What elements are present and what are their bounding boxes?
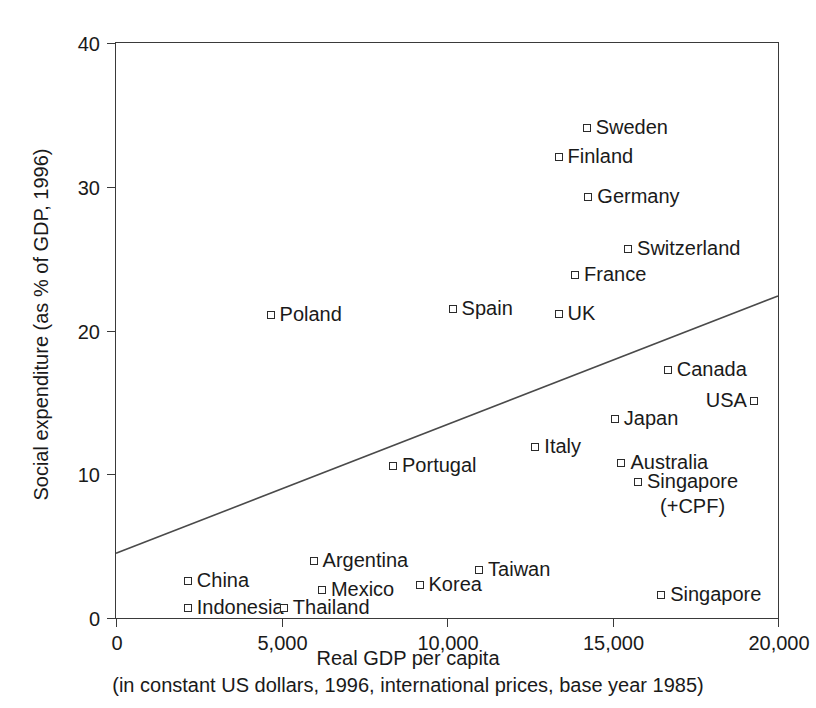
data-point-label: Germany bbox=[597, 184, 679, 209]
open-square-marker-icon bbox=[310, 557, 318, 565]
x-tick-10000: 10,000 bbox=[447, 618, 448, 627]
y-tick-label: 40 bbox=[78, 32, 100, 56]
x-tick-0: 0 bbox=[116, 618, 117, 627]
x-tick-20000: 20,000 bbox=[778, 618, 779, 627]
open-square-marker-icon bbox=[617, 459, 625, 467]
data-point-label: Switzerland bbox=[637, 236, 740, 261]
open-square-marker-icon bbox=[624, 245, 632, 253]
open-square-marker-icon bbox=[184, 604, 192, 612]
y-tick-label: 0 bbox=[89, 607, 100, 631]
data-point-label: Spain bbox=[462, 296, 513, 321]
open-square-marker-icon bbox=[184, 577, 192, 585]
open-square-marker-icon bbox=[634, 478, 642, 486]
x-axis-title: Real GDP per capita (in constant US doll… bbox=[0, 645, 816, 699]
open-square-marker-icon bbox=[416, 581, 424, 589]
open-square-marker-icon bbox=[583, 124, 591, 132]
y-tick-label: 10 bbox=[78, 463, 100, 487]
open-square-marker-icon bbox=[664, 366, 672, 374]
scatter-chart-figure: 010203040 05,00010,00015,00020,000 Swede… bbox=[0, 0, 816, 708]
open-square-marker-icon bbox=[555, 310, 563, 318]
data-point-label: Korea bbox=[429, 572, 482, 597]
data-point-label: China bbox=[197, 568, 249, 593]
data-point-label: Finland bbox=[568, 144, 634, 169]
data-point-label: Thailand bbox=[293, 595, 370, 620]
open-square-marker-icon bbox=[531, 443, 539, 451]
data-point-label: Poland bbox=[280, 302, 342, 327]
data-point-label: USA bbox=[706, 388, 747, 413]
y-axis-title: Social expenditure (as % of GDP, 1996) bbox=[30, 65, 53, 585]
open-square-marker-icon bbox=[571, 271, 579, 279]
data-point-label: Portugal bbox=[402, 453, 477, 478]
open-square-marker-icon bbox=[611, 415, 619, 423]
y-tick-10: 10 bbox=[107, 474, 116, 475]
data-point-label: Singapore bbox=[670, 582, 761, 607]
y-tick-label: 30 bbox=[78, 176, 100, 200]
y-tick-label: 20 bbox=[78, 320, 100, 344]
plot-area: 010203040 05,00010,00015,00020,000 Swede… bbox=[115, 42, 779, 619]
data-point-label-line2: (+CPF) bbox=[647, 494, 738, 519]
data-point-label: Italy bbox=[544, 434, 581, 459]
open-square-marker-icon bbox=[267, 311, 275, 319]
data-point-label: Singapore(+CPF) bbox=[647, 469, 738, 519]
open-square-marker-icon bbox=[657, 591, 665, 599]
x-tick-15000: 15,000 bbox=[613, 618, 614, 627]
open-square-marker-icon bbox=[389, 462, 397, 470]
y-tick-20: 20 bbox=[107, 331, 116, 332]
open-square-marker-icon bbox=[750, 397, 758, 405]
data-point-label: Sweden bbox=[596, 115, 668, 140]
data-point-label: France bbox=[584, 262, 646, 287]
open-square-marker-icon bbox=[555, 153, 563, 161]
open-square-marker-icon bbox=[318, 586, 326, 594]
data-point-label: Taiwan bbox=[488, 557, 550, 582]
x-axis-title-main: Real GDP per capita bbox=[0, 645, 816, 672]
x-axis-title-sub: (in constant US dollars, 1996, internati… bbox=[0, 672, 816, 699]
data-point-label: UK bbox=[568, 301, 596, 326]
data-point-label: Japan bbox=[624, 406, 679, 431]
data-point-label: Indonesia bbox=[197, 595, 284, 620]
open-square-marker-icon bbox=[449, 305, 457, 313]
open-square-marker-icon bbox=[280, 604, 288, 612]
y-tick-0: 0 bbox=[107, 618, 116, 619]
open-square-marker-icon bbox=[584, 193, 592, 201]
data-point-label: Argentina bbox=[323, 548, 409, 573]
y-tick-30: 30 bbox=[107, 187, 116, 188]
trendline-layer bbox=[116, 43, 778, 618]
y-tick-40: 40 bbox=[107, 43, 116, 44]
data-point-label: Canada bbox=[677, 357, 747, 382]
